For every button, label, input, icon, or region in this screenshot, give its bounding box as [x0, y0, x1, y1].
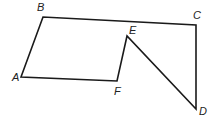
vertex-label-b: B: [37, 1, 44, 13]
polygon-diagram: A B C D E F: [0, 0, 210, 121]
vertex-label-e: E: [129, 24, 137, 36]
polygon-ABCDEF: [21, 17, 196, 109]
vertex-label-a: A: [11, 71, 19, 83]
vertex-label-f: F: [114, 85, 122, 97]
vertex-label-d: D: [199, 105, 207, 117]
vertex-label-c: C: [193, 9, 201, 21]
